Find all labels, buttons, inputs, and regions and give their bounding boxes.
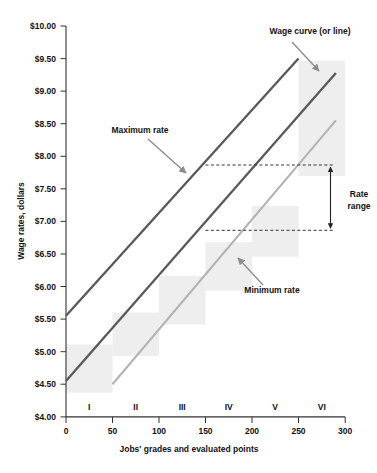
y-axis-title: Wage rates, dollars [16, 182, 26, 260]
grade-box-I [66, 344, 113, 392]
grade-label-V: V [272, 402, 278, 412]
grade-label-VI: VI [318, 402, 326, 412]
y-tick-label: $7.00 [35, 216, 57, 226]
grade-label-IV: IV [225, 402, 233, 412]
y-tick-label: $10.00 [30, 21, 56, 31]
rate-range-label-line2: range [347, 201, 370, 211]
x-axis-ticks [66, 417, 345, 423]
y-tick-label: $6.50 [35, 249, 57, 259]
y-axis-tick-labels: $10.00 $9.50 $9.00 $8.50 $8.00 $7.50 $7.… [30, 21, 56, 422]
y-tick-label: $9.00 [35, 86, 57, 96]
grade-label-II: II [133, 402, 138, 412]
x-tick-label: 0 [64, 426, 69, 436]
x-tick-label: 150 [198, 426, 212, 436]
x-tick-label: 250 [291, 426, 305, 436]
rate-range-label-line1: Rate [350, 189, 369, 199]
x-tick-label: 200 [245, 426, 259, 436]
wage-structure-chart: $10.00 $9.50 $9.00 $8.50 $8.00 $7.50 $7.… [0, 0, 377, 473]
minimum-rate-line [113, 120, 336, 384]
y-tick-label: $7.50 [35, 184, 57, 194]
y-axis-ticks [61, 26, 67, 417]
maximum-rate-annotation: Maximum rate [111, 125, 186, 173]
x-axis-title: Jobs' grades and evaluated points [119, 444, 258, 454]
minimum-rate-annotation-label: Minimum rate [244, 285, 300, 295]
y-tick-label: $8.50 [35, 119, 57, 129]
grade-label-I: I [88, 402, 90, 412]
maximum-rate-annotation-label: Maximum rate [111, 125, 168, 135]
y-tick-label: $8.00 [35, 151, 57, 161]
x-tick-label: 50 [108, 426, 118, 436]
grade-box-VI [299, 61, 346, 176]
y-tick-label: $9.50 [35, 54, 57, 64]
maximum-rate-annotation-arrow [148, 139, 186, 173]
chart-canvas: $10.00 $9.50 $9.00 $8.50 $8.00 $7.50 $7.… [0, 0, 377, 473]
grade-numeral-labels: I II III IV V VI [88, 402, 326, 412]
x-tick-label: 100 [152, 426, 166, 436]
y-tick-label: $5.50 [35, 314, 57, 324]
grade-label-III: III [179, 402, 186, 412]
x-tick-label: 300 [338, 426, 352, 436]
x-axis-tick-labels: 0 50 100 150 200 250 300 [64, 426, 353, 436]
grade-box-V [252, 206, 299, 257]
wage-curve-annotation-label: Wage curve (or line) [270, 26, 351, 36]
y-tick-label: $4.00 [35, 412, 57, 422]
y-tick-label: $4.50 [35, 379, 57, 389]
y-tick-label: $6.00 [35, 282, 57, 292]
y-tick-label: $5.00 [35, 347, 57, 357]
